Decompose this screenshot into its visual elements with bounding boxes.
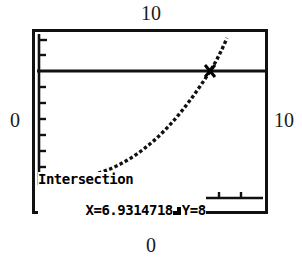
coordinate-readout: X=6.9314718Y=8 [38,188,206,233]
x-min-label: 0 [0,235,302,255]
y-axis [39,34,47,185]
y-max-label: 10 [0,3,302,23]
y-coordinate-readout: Y=8 [182,202,206,218]
y-min-label: 0 [10,110,20,130]
status-title: Intersection [38,172,133,187]
coordinate-separator-icon [173,205,182,216]
exponential-curve-series [87,38,227,176]
calculator-lcd-screen[interactable]: Intersection X=6.9314718Y=8 [32,29,268,214]
calculator-screenshot: 10 0 10 0 [0,0,302,258]
x-coordinate-readout: X=6.9314718 [86,202,173,218]
x-max-label: 10 [274,110,294,130]
